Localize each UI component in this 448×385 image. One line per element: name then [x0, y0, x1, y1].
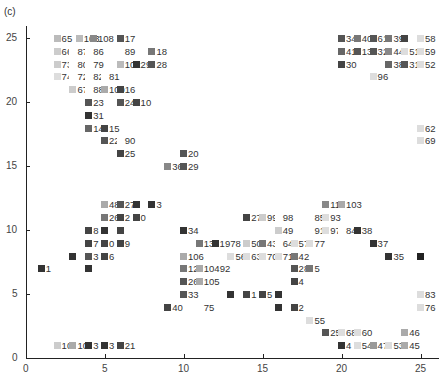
data-point: 86 — [85, 47, 104, 56]
point-label: 30 — [346, 59, 357, 70]
square-marker-icon — [101, 253, 108, 260]
square-marker-icon — [370, 73, 377, 80]
square-marker-icon — [306, 227, 313, 234]
data-point: 98 — [275, 213, 294, 222]
point-label: 3 — [156, 199, 161, 210]
data-point: 1 — [243, 290, 256, 299]
data-point — [117, 226, 125, 235]
square-marker-icon — [133, 61, 140, 68]
square-marker-icon — [401, 61, 408, 68]
square-marker-icon — [69, 61, 76, 68]
point-label: 58 — [425, 33, 436, 44]
data-point: 83 — [417, 290, 436, 299]
square-marker-icon — [85, 265, 92, 272]
data-point: 31 — [85, 111, 104, 120]
square-marker-icon — [306, 214, 313, 221]
square-marker-icon — [164, 163, 171, 170]
data-point — [85, 264, 93, 273]
data-point: 42 — [291, 252, 310, 261]
square-marker-icon — [101, 201, 108, 208]
point-label: 5 — [267, 289, 272, 300]
data-point: 3 — [101, 341, 114, 350]
square-marker-icon — [322, 329, 329, 336]
point-label: 106 — [188, 251, 204, 262]
square-marker-icon — [196, 240, 203, 247]
square-marker-icon — [85, 61, 92, 68]
point-label: 16 — [125, 84, 136, 95]
square-marker-icon — [259, 214, 266, 221]
square-marker-icon — [291, 304, 298, 311]
square-marker-icon — [322, 214, 329, 221]
y-tick — [26, 230, 30, 231]
x-axis-line — [26, 358, 439, 359]
data-point: 33 — [180, 290, 199, 299]
point-label: 81 — [109, 71, 120, 82]
data-point — [69, 252, 77, 261]
x-tick-label: 0 — [23, 363, 29, 374]
square-marker-icon — [85, 342, 92, 349]
square-marker-icon — [322, 227, 329, 234]
square-marker-icon — [101, 125, 108, 132]
square-marker-icon — [227, 291, 234, 298]
square-marker-icon — [180, 291, 187, 298]
data-point: 60 — [354, 328, 373, 337]
square-marker-icon — [417, 137, 424, 144]
square-marker-icon — [385, 253, 392, 260]
point-label: 40 — [172, 302, 183, 313]
point-label: 1978 — [220, 238, 241, 249]
point-label: 89 — [125, 46, 136, 57]
point-label: 28 — [156, 59, 167, 70]
data-point: 10492 — [196, 264, 230, 273]
square-marker-icon — [76, 35, 83, 42]
point-label: 3 — [109, 340, 114, 351]
square-marker-icon — [69, 48, 76, 55]
data-point — [401, 34, 409, 43]
point-label: 77 — [314, 238, 325, 249]
square-marker-icon — [180, 227, 187, 234]
square-marker-icon — [338, 48, 345, 55]
square-marker-icon — [338, 227, 345, 234]
point-label: 3 — [93, 251, 98, 262]
data-point: 30 — [338, 60, 357, 69]
square-marker-icon — [196, 265, 203, 272]
data-point: 35 — [385, 252, 404, 261]
data-point: 105 — [196, 277, 220, 286]
data-point — [275, 290, 283, 299]
data-point: 49 — [275, 226, 294, 235]
square-marker-icon — [275, 240, 282, 247]
point-label: 10 — [141, 97, 152, 108]
square-marker-icon — [370, 342, 377, 349]
data-point: 106 — [180, 252, 204, 261]
data-point: 5 — [306, 264, 319, 273]
y-axis-line — [26, 26, 27, 359]
square-marker-icon — [85, 99, 92, 106]
data-point: 62 — [417, 124, 436, 133]
square-marker-icon — [275, 214, 282, 221]
point-label: 46 — [409, 327, 420, 338]
point-label: 60 — [362, 327, 373, 338]
data-point: 75 — [196, 303, 215, 312]
data-point: 29 — [180, 162, 199, 171]
point-label: 8 — [93, 225, 98, 236]
square-marker-icon — [338, 35, 345, 42]
point-label: 59 — [425, 46, 436, 57]
square-marker-icon — [101, 214, 108, 221]
square-marker-icon — [180, 163, 187, 170]
data-point: 34 — [180, 226, 199, 235]
square-marker-icon — [243, 291, 250, 298]
square-marker-icon — [180, 265, 187, 272]
point-label: 90 — [125, 135, 136, 146]
square-marker-icon — [291, 240, 298, 247]
point-label: 3 — [93, 340, 98, 351]
point-label: 86 — [93, 46, 104, 57]
data-point — [275, 303, 283, 312]
square-marker-icon — [275, 291, 282, 298]
square-marker-icon — [148, 48, 155, 55]
point-label: 62 — [425, 123, 436, 134]
point-label: 5 — [314, 263, 319, 274]
point-label: 15 — [109, 123, 120, 134]
data-point: 15 — [101, 124, 120, 133]
square-marker-icon — [54, 342, 61, 349]
square-marker-icon — [69, 342, 76, 349]
data-point: 0 — [133, 213, 146, 222]
